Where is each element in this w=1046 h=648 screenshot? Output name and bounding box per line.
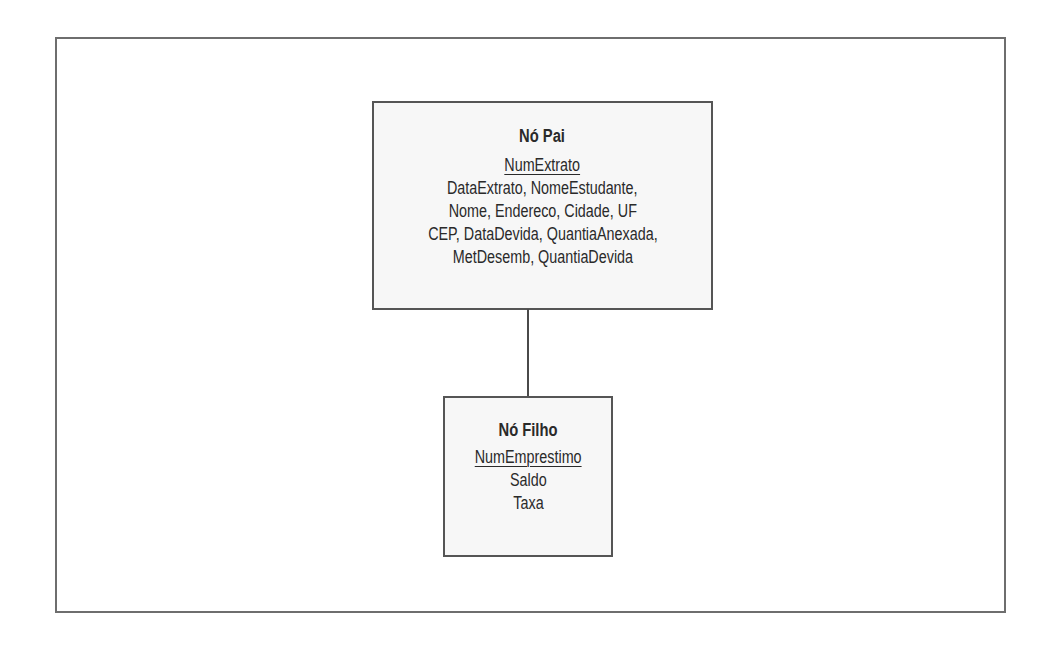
child-node-key: NumEmprestimo: [475, 446, 582, 469]
parent-node-attributes-line: DataExtrato, NomeEstudante,: [447, 177, 638, 200]
parent-node-attributes-line: Nome, Endereco, Cidade, UF: [448, 200, 636, 223]
child-node: Nó Filho NumEmprestimo Saldo Taxa: [443, 396, 613, 557]
parent-node: Nó Pai NumExtrato DataExtrato, NomeEstud…: [372, 101, 713, 310]
parent-node-key: NumExtrato: [505, 154, 581, 177]
child-node-attribute: Taxa: [513, 492, 543, 515]
parent-node-attributes-line: CEP, DataDevida, QuantiaAnexada,: [428, 223, 657, 246]
parent-node-attributes-line: MetDesemb, QuantiaDevida: [452, 246, 632, 269]
parent-child-connector: [527, 309, 529, 397]
parent-node-title: Nó Pai: [520, 124, 566, 148]
child-node-title: Nó Filho: [498, 418, 557, 442]
child-node-attribute: Saldo: [510, 469, 547, 492]
